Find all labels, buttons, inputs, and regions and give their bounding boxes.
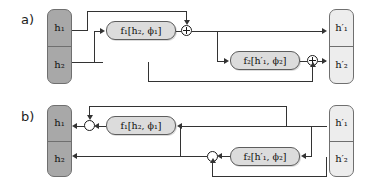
wire-a-h2-out	[72, 62, 103, 63]
arrow-a-into-f1	[100, 28, 105, 34]
panel-b-output-cell-h1: h₁	[48, 106, 71, 142]
wire-b-h2prime-bottom	[212, 176, 327, 177]
panel-a-function-box-f2: f₂[h′₁, ϕ₂]	[230, 51, 300, 70]
panel-b-output-vector: h₁ h₂	[47, 105, 72, 177]
arrow-a-into-f2	[224, 58, 229, 64]
wire-a-h2-up-to-plus2	[312, 66, 313, 82]
wire-a-h1-up	[87, 11, 88, 31]
panel-b-function-box-f2: f₂[h′₁, ϕ₂]	[230, 147, 300, 166]
wire-a-plus1-out	[192, 31, 324, 32]
wire-b-h1prime-top	[89, 106, 287, 107]
wire-a-h1-out	[72, 30, 88, 31]
arrow-b-into-f2	[301, 153, 306, 159]
arrow-b-into-h2	[72, 153, 77, 159]
wire-b-h1prime-to-f2	[306, 156, 312, 157]
panel-b-output-cell-h2: h₂	[48, 142, 71, 177]
panel-a-output-cell-h2prime: h′₂	[330, 47, 353, 83]
wire-b-h1prime-up	[286, 106, 287, 127]
panel-b-function-box-f1: f₁[h₂, ϕ₁]	[106, 116, 176, 135]
panel-a-function-box-f1: f₁[h₂, ϕ₁]	[106, 21, 176, 40]
wire-b-h2prime-down	[326, 157, 327, 177]
panel-a-input-cell-h1: h₁	[48, 10, 71, 47]
wire-b-h1prime-branch-down	[311, 126, 312, 157]
wire-b-circle2-to-h2	[76, 156, 207, 157]
arrow-b-into-h1	[72, 123, 77, 129]
panel-a-input-cell-h2: h₂	[48, 47, 71, 83]
wire-a-h2-up	[94, 31, 95, 63]
panel-a-label: a)	[21, 12, 34, 27]
figure-canvas: a) h₁ h₂ f₁[h₂, ϕ₁] f₂[h′₁, ϕ₂]	[0, 0, 369, 187]
arrow-b-into-circle1	[94, 123, 99, 129]
wire-b-f1-input-drop	[180, 126, 181, 157]
arrow-a-into-plus2	[310, 62, 316, 67]
wire-a-f1-out	[176, 31, 181, 32]
wire-b-circle1-to-h1	[76, 126, 85, 127]
arrow-b-into-circle1-top	[87, 115, 93, 120]
panel-b-input-cell-h2prime: h′₂	[330, 142, 353, 177]
wire-a-h2-bottom	[148, 81, 313, 82]
panel-b: b) h₁ h₂ f₁[h₂, ϕ₁] f₂[h′₁, ϕ₂]	[0, 95, 369, 187]
arrow-b-into-circle2	[217, 153, 222, 159]
arrow-b-into-circle2-bottom	[210, 158, 216, 163]
arrow-a-into-h2prime	[322, 58, 327, 64]
wire-a-h1prime-branch-down	[217, 31, 218, 61]
panel-b-input-vector: h′₁ h′₂	[329, 105, 354, 177]
arrow-a-into-h1prime	[322, 28, 327, 34]
panel-a-output-cell-h1prime: h′₁	[330, 10, 353, 47]
wire-b-h2prime-up-to-circle2	[212, 162, 213, 177]
wire-a-h2-down	[148, 62, 149, 82]
wire-a-h1-top	[87, 11, 186, 12]
wire-b-h1prime-into-f1	[182, 126, 327, 127]
panel-a: a) h₁ h₂ f₁[h₂, ϕ₁] f₂[h′₁, ϕ₂]	[0, 0, 369, 95]
panel-a-output-vector: h′₁ h′₂	[329, 9, 354, 84]
panel-b-input-cell-h1prime: h′₁	[330, 106, 353, 142]
panel-a-add-operator-1	[181, 25, 192, 36]
panel-a-input-vector: h₁ h₂	[47, 9, 72, 84]
arrow-a-into-plus1	[184, 20, 190, 25]
wire-a-f2-out	[300, 61, 307, 62]
panel-b-label: b)	[21, 109, 34, 124]
